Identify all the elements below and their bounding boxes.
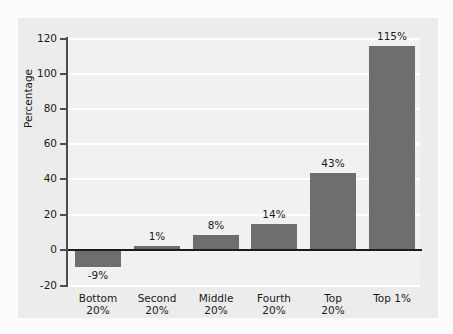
bar-value-top-1: 115% xyxy=(369,31,415,42)
y-tick-label-80: 80 xyxy=(44,103,57,114)
y-tick-60 xyxy=(60,143,67,145)
bar-top-1 xyxy=(369,46,415,249)
bar-value-bottom-20: -9% xyxy=(75,270,121,281)
y-tick-100 xyxy=(60,73,67,75)
x-label-top-20-line2: 20% xyxy=(303,304,363,316)
y-tick-120 xyxy=(60,38,67,40)
x-label-middle-20-line2: 20% xyxy=(186,304,246,316)
bar-middle-20 xyxy=(193,235,239,249)
gridline-minus20 xyxy=(68,285,420,287)
gridline-120 xyxy=(68,38,420,40)
bar-second-20 xyxy=(134,246,180,249)
x-label-top-1-line1: Top 1% xyxy=(373,292,411,304)
bar-value-second-20: 1% xyxy=(134,231,180,242)
gridline-40 xyxy=(68,178,420,180)
x-label-bottom-20-line2: 20% xyxy=(68,304,128,316)
y-tick-label-100: 100 xyxy=(37,68,57,79)
x-label-middle-20-line1: Middle xyxy=(199,292,234,304)
bar-value-middle-20: 8% xyxy=(193,220,239,231)
x-label-second-20: Second 20% xyxy=(127,292,187,316)
x-label-middle-20: Middle 20% xyxy=(186,292,246,316)
y-tick-label-0: 0 xyxy=(50,244,57,255)
gridline-80 xyxy=(68,108,420,110)
chart-screenshot: 120 100 80 60 40 20 0 -20 Percentage -9%… xyxy=(0,0,453,334)
y-tick-20 xyxy=(60,214,67,216)
y-tick-80 xyxy=(60,108,67,110)
y-tick-40 xyxy=(60,178,67,180)
gridline-100 xyxy=(68,73,420,75)
y-tick-label-60: 60 xyxy=(44,138,57,149)
x-label-second-20-line1: Second xyxy=(138,292,177,304)
x-label-top-20-line1: Top xyxy=(324,292,342,304)
y-tick-label-120: 120 xyxy=(37,33,57,44)
x-label-top-20: Top 20% xyxy=(303,292,363,316)
bar-value-fourth-20: 14% xyxy=(251,209,297,220)
bar-value-top-20: 43% xyxy=(310,158,356,169)
bar-fourth-20 xyxy=(251,224,297,249)
x-label-fourth-20-line2: 20% xyxy=(244,304,304,316)
bar-bottom-20 xyxy=(75,251,121,267)
y-tick-minus20 xyxy=(60,285,67,287)
gridline-60 xyxy=(68,143,420,145)
y-tick-label-20: 20 xyxy=(44,209,57,220)
bar-top-20 xyxy=(310,173,356,249)
x-label-bottom-20: Bottom 20% xyxy=(68,292,128,316)
gridline-20 xyxy=(68,214,420,216)
zero-line xyxy=(68,249,422,251)
x-label-bottom-20-line1: Bottom xyxy=(79,292,118,304)
y-tick-label-minus20: -20 xyxy=(40,280,57,291)
x-label-fourth-20: Fourth 20% xyxy=(244,292,304,316)
x-label-fourth-20-line1: Fourth xyxy=(257,292,291,304)
y-tick-label-40: 40 xyxy=(44,173,57,184)
x-label-top-1: Top 1% xyxy=(362,292,422,304)
y-axis-title: Percentage xyxy=(22,69,34,128)
x-label-second-20-line2: 20% xyxy=(127,304,187,316)
y-tick-0 xyxy=(60,249,67,251)
